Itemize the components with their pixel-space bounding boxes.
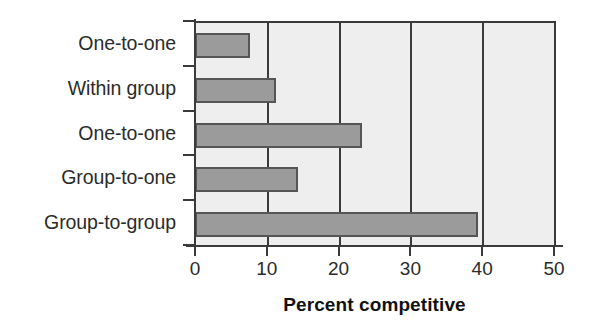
x-axis-tick-label-20: 20 [309,258,369,280]
x-axis-tick-10 [266,247,268,256]
x-axis-tick-label-50: 50 [524,258,584,280]
x-axis-tick-40 [481,247,483,256]
plot-inner [195,23,554,247]
x-axis-tick-20 [338,247,340,256]
bar-group-to-group [195,212,478,237]
x-axis-line [186,245,563,247]
y-axis-label-1: Within group [68,66,176,111]
horizontal-bar-chart: One-to-one Within group One-to-one Group… [0,0,592,334]
y-axis-label-0: One-to-one [78,21,176,66]
x-axis-tick-label-0: 0 [165,258,225,280]
x-axis-tick-30 [409,247,411,256]
x-axis-tick-label-10: 10 [237,258,297,280]
bar-group-to-one [195,167,298,192]
x-axis-tick-label-40: 40 [452,258,512,280]
x-axis-tick-label-30: 30 [380,258,440,280]
plot-area [195,21,556,247]
x-axis-tick-50 [553,247,555,256]
x-axis-title: Percent competitive [195,294,554,316]
y-axis-label-4: Group-to-group [44,200,176,245]
bar-one-to-one-top [195,33,250,58]
y-axis-line [194,19,196,247]
bar-within-group [195,78,276,103]
y-axis-category-labels: One-to-one Within group One-to-one Group… [0,21,186,245]
bar-one-to-one-mid [195,123,362,148]
y-axis-label-3: Group-to-one [61,155,176,200]
gridline-40 [482,23,484,247]
y-axis-label-2: One-to-one [78,111,176,156]
x-axis-tick-0 [194,247,196,256]
